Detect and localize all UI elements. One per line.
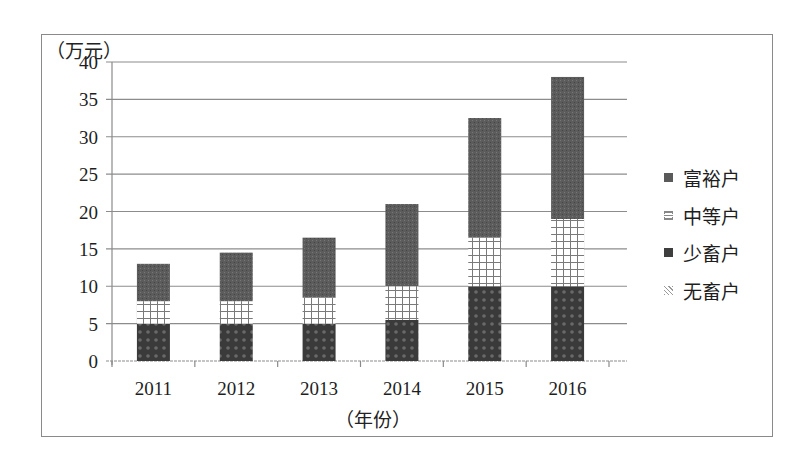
legend-swatch-mid-icon [664, 211, 673, 220]
bar-segment-few-2016 [551, 286, 584, 361]
y-tick-label: 30 [79, 127, 98, 148]
x-tick-label: 2013 [300, 378, 338, 399]
bar-segment-rich-2015 [468, 118, 501, 238]
bar-segment-few-2012 [220, 324, 253, 361]
y-tick-label: 35 [79, 89, 98, 110]
legend-item-mid: 中等户 [664, 200, 740, 230]
x-tick-label: 2015 [466, 378, 504, 399]
bar-segment-mid-2012 [220, 301, 253, 323]
y-axis-label: （万元） [46, 36, 122, 63]
legend-label: 无畜户 [683, 277, 740, 304]
bar-segment-mid-2014 [385, 286, 418, 320]
y-tick-label: 10 [79, 276, 98, 297]
y-tick-label: 0 [89, 351, 99, 372]
x-tick-label: 2014 [383, 378, 422, 399]
legend-swatch-none-icon [664, 286, 673, 295]
y-tick-label: 25 [79, 164, 98, 185]
legend-label: 中等户 [683, 202, 740, 229]
y-tick-label: 15 [79, 239, 98, 260]
bar-segment-mid-2016 [551, 219, 584, 286]
bar-segment-rich-2012 [220, 253, 253, 302]
bar-segment-mid-2015 [468, 238, 501, 287]
legend-swatch-rich-icon [664, 173, 673, 182]
legend-label: 富裕户 [683, 164, 740, 191]
y-axis-ticks: 0510152025303540 [79, 52, 98, 372]
legend-swatch-few-icon [664, 248, 673, 257]
legend-item-few: 少畜户 [664, 237, 740, 267]
bar-segment-few-2013 [303, 324, 336, 361]
bar-segment-few-2014 [385, 320, 418, 361]
bar-segment-few-2015 [468, 286, 501, 361]
bar-segment-rich-2016 [551, 77, 584, 219]
y-tick-label: 5 [89, 314, 99, 335]
legend-label: 少畜户 [683, 239, 740, 266]
stacked-bar-chart: 0510152025303540 20112012201320142015201… [0, 0, 801, 469]
x-axis: 201120122013201420152016 [112, 361, 609, 399]
gridlines [106, 62, 627, 365]
x-tick-label: 2016 [549, 378, 587, 399]
bar-segment-rich-2013 [303, 238, 336, 298]
y-tick-label: 20 [79, 202, 98, 223]
bar-segment-rich-2011 [137, 264, 170, 301]
bar-segment-rich-2014 [385, 204, 418, 286]
bar-segment-few-2011 [137, 324, 170, 361]
legend-item-rich: 富裕户 [664, 162, 740, 192]
bar-segment-mid-2013 [303, 297, 336, 323]
bars [137, 77, 584, 361]
legend-item-none: 无畜户 [664, 275, 740, 305]
x-axis-label: （年份） [335, 405, 411, 432]
bar-segment-mid-2011 [137, 301, 170, 323]
x-tick-label: 2011 [135, 378, 172, 399]
x-tick-label: 2012 [217, 378, 255, 399]
